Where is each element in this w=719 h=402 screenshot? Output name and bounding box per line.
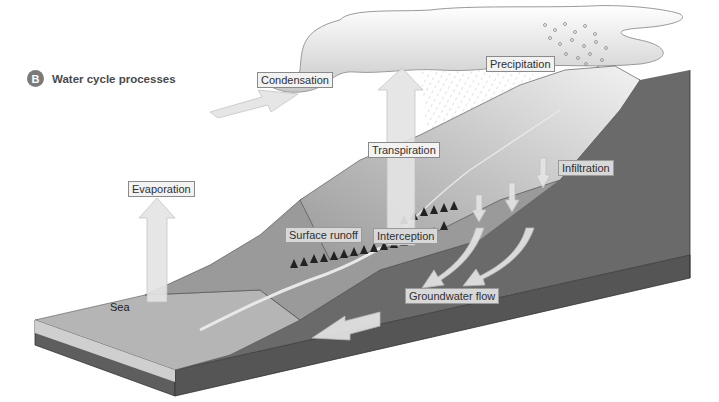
water-cycle-diagram: B Water cycle processes Condensation Pre… [0, 0, 719, 402]
section-heading: B Water cycle processes [27, 70, 176, 87]
label-evaporation: Evaporation [128, 181, 195, 197]
label-surface-runoff: Surface runoff [285, 227, 362, 243]
condensation-arrow-icon [210, 90, 298, 118]
section-badge: B [27, 70, 44, 87]
label-transpiration: Transpiration [368, 142, 440, 158]
label-precipitation: Precipitation [486, 56, 555, 72]
label-infiltration: Infiltration [558, 160, 614, 176]
label-interception: Interception [373, 228, 438, 244]
ground-block [35, 66, 690, 396]
section-title: Water cycle processes [52, 73, 176, 85]
landscape-illustration [0, 0, 719, 402]
label-sea: Sea [110, 301, 130, 313]
label-groundwater-flow: Groundwater flow [405, 288, 499, 304]
label-condensation: Condensation [257, 72, 333, 88]
